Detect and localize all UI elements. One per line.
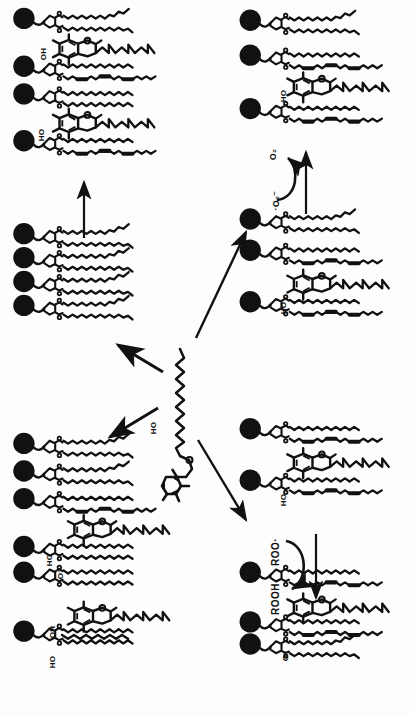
label-superoxide-radical: ·O₂⁻ — [272, 190, 281, 210]
membrane-panel-middle-left — [13, 223, 132, 319]
membrane-panel-bottom-left — [13, 433, 169, 645]
membrane-panel-top-right — [240, 10, 389, 123]
label-peroxyl-radical: ROO· — [271, 538, 281, 566]
label-tocopherol-ho-top-left-2: HO — [38, 129, 46, 141]
label-tocopheroxide-o-minus-bottom-left: O⁻ — [57, 569, 65, 580]
membrane-panel-middle-right — [240, 208, 389, 315]
label-center-tocopherol-ho: HO — [150, 422, 158, 434]
arrow-down-right-diagonal — [198, 440, 246, 520]
center-tocopherol-molecule — [162, 349, 193, 501]
membrane-panel-bottom-right-lower — [240, 562, 389, 658]
label-dioxygen: O₂ — [269, 149, 278, 161]
figure-canvas: OH HO HO O⁻ OH HO HO HO HO O⁻ HO O₂ ·O₂⁻… — [0, 0, 414, 715]
label-tocopherol-ho-middle-right: HO — [280, 302, 288, 314]
label-tocopherol-oh-top-left-1: OH — [40, 48, 48, 60]
label-tocopherol-ho-bottom-left-3: HO — [49, 656, 57, 668]
label-hydroperoxide: ROOH — [271, 583, 281, 615]
arrow-peroxyl-curved — [286, 541, 304, 589]
arrow-in-to-center-upleft — [118, 345, 163, 372]
label-tocopheroxide-o-minus-bottom-right: O⁻ — [282, 651, 290, 662]
label-tocopherol-oh-bottom-left-2: OH — [49, 626, 57, 638]
diagram-svg — [0, 0, 414, 715]
membrane-panel-top-left — [13, 8, 155, 155]
membrane-panel-bottom-right-upper — [240, 418, 389, 494]
label-tocopherol-ho-bottom-left-1: HO — [46, 554, 54, 566]
label-tocopherol-ho-bottom-right-upper: HO — [280, 494, 288, 506]
label-tocopherol-ho-top-right: HO — [280, 90, 288, 102]
arrow-up-right-diagonal — [196, 232, 246, 338]
